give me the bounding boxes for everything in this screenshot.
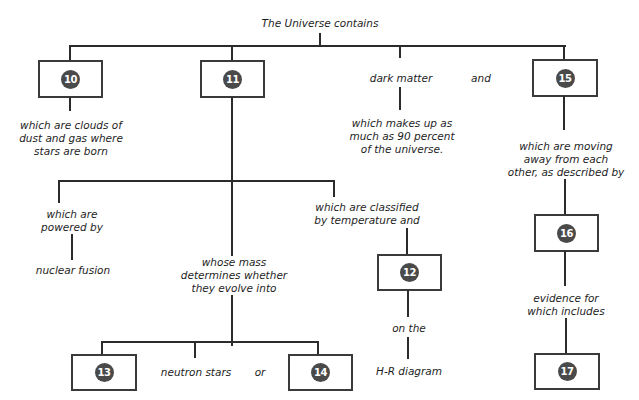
connector [231, 97, 233, 346]
label-neutron-stars: neutron stars [161, 366, 231, 379]
connector [194, 341, 196, 358]
connector [71, 234, 73, 260]
number-badge: 11 [223, 70, 242, 89]
label-powered-by: which are powered by [41, 208, 103, 234]
number-badge: 17 [558, 362, 577, 381]
label-whose-mass: whose mass determines whether they evolv… [181, 256, 287, 295]
connector [399, 87, 401, 110]
connector [563, 96, 565, 130]
connector [58, 180, 335, 182]
connector [407, 337, 409, 359]
connector [317, 341, 319, 355]
answer-box-17[interactable]: 17 [534, 353, 600, 390]
connector [399, 45, 401, 58]
number-badge: 15 [556, 69, 575, 88]
answer-box-10[interactable]: 10 [38, 60, 103, 98]
label-and: and [471, 72, 491, 85]
connector [333, 180, 335, 197]
connector [69, 97, 71, 111]
connector [564, 179, 566, 214]
connector [564, 251, 566, 286]
connector [101, 341, 319, 343]
connector [101, 341, 103, 355]
answer-box-15[interactable]: 15 [532, 59, 598, 97]
concept-map: The Universe contains 10 which are cloud… [0, 0, 639, 400]
number-badge: 12 [400, 263, 419, 282]
number-badge: 16 [557, 224, 576, 243]
answer-box-12[interactable]: 12 [377, 254, 442, 291]
number-badge: 14 [311, 363, 330, 382]
label-nuclear-fusion: nuclear fusion [36, 264, 110, 277]
label-hr-diagram: H-R diagram [376, 365, 442, 378]
answer-box-14[interactable]: 14 [288, 354, 353, 391]
label-classified: which are classified by temperature and [314, 201, 420, 227]
connector [231, 45, 233, 60]
answer-box-16[interactable]: 16 [534, 214, 599, 252]
number-badge: 13 [95, 363, 114, 382]
connector [406, 228, 408, 254]
connector [407, 290, 409, 317]
connector [69, 45, 71, 60]
connector [563, 45, 565, 60]
connector [565, 318, 567, 353]
label-evidence: evidence for which includes [527, 292, 604, 318]
label-dark-matter-desc: which makes up as much as 90 percent of … [349, 117, 454, 156]
title-universe-contains: The Universe contains [262, 17, 379, 30]
label-or: or [255, 366, 266, 379]
label-dark-matter: dark matter [370, 72, 433, 85]
label-on-the: on the [392, 322, 426, 335]
connector [70, 45, 566, 47]
answer-box-13[interactable]: 13 [71, 354, 137, 391]
label-clouds: which are clouds of dust and gas where s… [19, 119, 123, 158]
label-moving-away: which are moving away from each other, a… [508, 140, 625, 179]
answer-box-11[interactable]: 11 [200, 60, 265, 98]
connector [58, 180, 60, 203]
number-badge: 10 [61, 70, 80, 89]
